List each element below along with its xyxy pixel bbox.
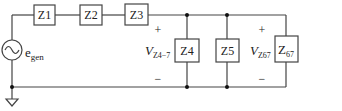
impedance-z2: Z2 xyxy=(80,5,102,25)
voltage-label-z4-7: VZ4−7 xyxy=(145,43,170,60)
svg-text:Z5: Z5 xyxy=(221,44,234,58)
junction-dot xyxy=(185,13,189,17)
impedance-z5: Z5 xyxy=(216,39,239,62)
impedance-z4: Z4 xyxy=(175,39,199,62)
impedance-z67: Z67 xyxy=(275,36,298,62)
source-label: egen xyxy=(25,45,44,62)
minus-sign: − xyxy=(155,72,162,86)
minus-sign: − xyxy=(259,72,266,86)
junction-dot xyxy=(225,85,229,89)
ac-source-icon xyxy=(2,40,22,60)
svg-text:Z2: Z2 xyxy=(84,8,97,22)
ground-icon xyxy=(6,99,18,106)
impedance-z3: Z3 xyxy=(125,4,148,25)
impedance-z1: Z1 xyxy=(34,5,55,25)
plus-sign: + xyxy=(155,23,162,37)
circuit-diagram: egen Z1 Z2 Z3 Z4 Z5 Z67 + VZ4−7 − + VZ67… xyxy=(0,0,342,111)
junction-dot xyxy=(225,13,229,17)
svg-text:Z1: Z1 xyxy=(38,8,51,22)
svg-text:Z4: Z4 xyxy=(180,44,193,58)
voltage-label-z67: VZ67 xyxy=(250,43,271,60)
junction-dot xyxy=(185,85,189,89)
plus-sign: + xyxy=(259,23,266,37)
junction-dot xyxy=(10,85,14,89)
svg-text:Z3: Z3 xyxy=(130,8,143,22)
